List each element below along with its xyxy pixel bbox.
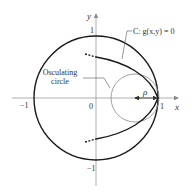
osculating-label-line2: circle	[51, 77, 69, 86]
curve-c-dashed-top	[85, 54, 96, 57]
y-neg-tick-label: −1	[87, 164, 96, 173]
origin-label: 0	[89, 102, 93, 111]
y-pos-tick-label: 1	[90, 26, 94, 35]
y-axis-label: y	[86, 11, 91, 21]
x-axis-label: x	[174, 102, 179, 112]
radius-label: ρ	[142, 87, 148, 97]
x-neg-tick-label: −1	[20, 101, 29, 110]
x-pos-tick-label: 1	[160, 102, 164, 111]
curve-c-dashed-bottom	[85, 139, 96, 142]
osculating-label-leader	[83, 78, 110, 88]
curve-label: C: g(x,y) = 0	[133, 27, 174, 36]
diagram-canvas: y x 0 1 −1 1 −1 C: g(x,y) = 0 Osculating…	[0, 0, 192, 194]
osculating-label-line1: Osculating	[43, 68, 78, 77]
